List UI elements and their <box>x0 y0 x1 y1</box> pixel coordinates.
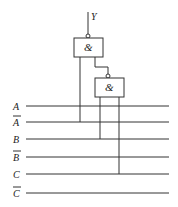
label-c: C <box>13 169 20 180</box>
label-c-bar: C <box>13 188 20 199</box>
gate2-to-gate1-wire <box>95 57 108 74</box>
label-b: B <box>13 134 19 145</box>
label-a-bar: A <box>12 117 20 128</box>
label-b-bar: B <box>13 152 19 163</box>
gate2-inversion-bubble <box>106 74 110 78</box>
gate2-symbol: & <box>105 81 114 93</box>
label-a: A <box>12 101 20 112</box>
gate1-symbol: & <box>84 41 93 53</box>
gate1-inversion-bubble <box>86 34 90 38</box>
output-label: Y <box>91 11 98 22</box>
logic-diagram: Y & & A A B B C C <box>0 0 178 207</box>
